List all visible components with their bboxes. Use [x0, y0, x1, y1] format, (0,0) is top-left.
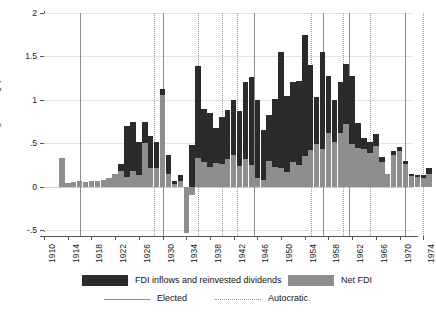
gridline [44, 100, 413, 101]
bar [249, 165, 255, 187]
reference-line-elected [80, 13, 81, 236]
bar [213, 163, 219, 186]
bar [409, 176, 415, 186]
bar [142, 143, 148, 186]
x-axis-tick [68, 236, 69, 240]
bar [308, 150, 314, 187]
reference-line-elected [405, 13, 406, 236]
bar [421, 178, 427, 187]
gridline [44, 187, 413, 188]
x-axis-tick [210, 236, 211, 240]
bar [343, 124, 349, 187]
x-axis-tick-label: 1970 [404, 244, 413, 263]
bar [385, 174, 391, 186]
x-axis-tick-label: 1926 [143, 244, 152, 263]
x-axis-tick-label: 1942 [238, 244, 247, 263]
x-axis-tick-label: 1954 [309, 244, 318, 263]
x-axis-tick [423, 236, 424, 240]
plot-area [44, 13, 413, 230]
reference-line-autocratic [154, 13, 155, 236]
bar [65, 183, 71, 187]
bar [426, 174, 432, 186]
x-axis-tick [352, 236, 353, 240]
x-axis-tick [305, 236, 306, 240]
legend-label-autocratic: Autocratic [268, 293, 308, 304]
y-axis-tick-label: 0 [32, 183, 37, 192]
bar [338, 133, 344, 187]
y-axis-tick-label: 1.5 [25, 52, 37, 61]
bar [189, 145, 195, 187]
gridline [44, 13, 413, 14]
x-axis-tick [257, 236, 258, 240]
bar [261, 180, 267, 187]
bar [89, 181, 95, 186]
x-axis-tick [281, 236, 282, 240]
bar [361, 149, 367, 186]
y-axis-tick-label: 2 [32, 9, 37, 18]
bar [278, 52, 284, 187]
bar [59, 158, 65, 187]
bar [261, 130, 267, 186]
bar [391, 155, 397, 186]
legend-swatch-net-fdi [288, 275, 334, 286]
x-axis-line [40, 236, 418, 237]
bar [415, 177, 421, 187]
bar [320, 149, 326, 186]
bar [355, 148, 361, 187]
bar [207, 167, 213, 187]
legend-line-elected [104, 299, 150, 300]
bar [266, 161, 272, 187]
bar [243, 159, 249, 187]
bar [397, 151, 403, 187]
x-axis-tick [44, 236, 45, 240]
legend-label-fdi-inflows: FDI inflows and reinvested dividends [135, 275, 282, 286]
y-axis-tick-label: 1 [32, 96, 37, 105]
bar [160, 95, 166, 187]
bar [71, 182, 77, 186]
bar [112, 174, 118, 186]
bar [284, 172, 290, 187]
x-axis-tick [234, 236, 235, 240]
bar [219, 164, 225, 187]
legend-line-autocratic-holder [215, 294, 261, 306]
x-axis-tick-label: 1914 [72, 244, 81, 263]
bar [231, 155, 237, 187]
bar [237, 166, 243, 187]
reference-line-autocratic [423, 13, 424, 236]
x-axis-tick [115, 236, 116, 240]
bar [255, 178, 261, 187]
x-axis-tick-label: 1974 [427, 244, 436, 263]
x-axis-tick-label: 1930 [167, 244, 176, 263]
x-axis-tick-label: 1938 [214, 244, 223, 263]
y-axis-tick [40, 187, 44, 188]
bar [201, 162, 207, 186]
bar [367, 153, 373, 187]
bar [77, 181, 83, 186]
bar [349, 144, 355, 187]
bar [106, 178, 112, 187]
bar [148, 168, 154, 187]
legend-line-autocratic [215, 299, 261, 300]
bar [189, 187, 195, 196]
bar [195, 158, 201, 187]
x-axis-tick [328, 236, 329, 240]
y-axis-tick-label: -.5 [27, 226, 37, 235]
bar [83, 182, 89, 186]
y-axis-tick [40, 13, 44, 14]
reference-line-autocratic [370, 13, 371, 236]
bar [290, 162, 296, 186]
x-axis-tick-label: 1946 [261, 244, 270, 263]
x-axis-tick [376, 236, 377, 240]
x-axis-tick [139, 236, 140, 240]
bar [166, 174, 172, 186]
x-axis-tick [91, 236, 92, 240]
y-axis-tick [40, 56, 44, 57]
x-axis-tick-label: 1962 [356, 244, 365, 263]
bar [184, 187, 190, 233]
x-axis-tick-label: 1922 [119, 244, 128, 263]
bar [314, 144, 320, 187]
y-axis-tick [40, 143, 44, 144]
bar [178, 181, 184, 186]
bar [332, 142, 338, 186]
